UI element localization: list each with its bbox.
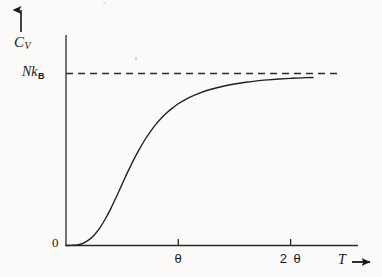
x-axis-label: T [338,253,346,267]
x-tick-label-theta: θ [174,252,181,265]
x-tick-label-two-theta: 2 θ [280,252,303,265]
heat-capacity-figure: CV NkB 0 θ 2 θ T [0,0,382,277]
y-axis-label: CV [14,35,31,51]
origin-label: 0 [52,236,59,249]
asymptote-label-main: Nk [22,64,38,79]
asymptote-label-subscript: B [38,71,45,81]
x-axis-direction-arrow [352,255,378,269]
y-axis-label-subscript: V [25,40,31,51]
asymptote-label: NkB [22,65,45,81]
y-axis-label-main: C [14,34,24,50]
heat-capacity-curve [66,77,313,245]
scan-artifact-speck [103,2,106,4]
scan-artifact-speck [135,57,137,60]
